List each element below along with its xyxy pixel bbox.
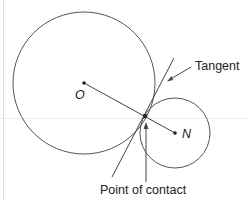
center-o-dot (82, 81, 86, 85)
label-tangent: Tangent (195, 60, 239, 73)
diagram-canvas (0, 0, 250, 200)
line-of-centres (84, 83, 175, 133)
label-n: N (182, 128, 191, 141)
label-point-of-contact: Point of contact (100, 184, 186, 197)
center-n-dot (173, 131, 177, 135)
contact-arrowhead-icon (144, 122, 149, 129)
tangent-pointer (169, 67, 191, 80)
contact-point-dot (143, 114, 147, 118)
tangent-arrowhead-icon (167, 76, 173, 82)
label-o: O (75, 89, 85, 102)
tangent-line (112, 58, 174, 177)
